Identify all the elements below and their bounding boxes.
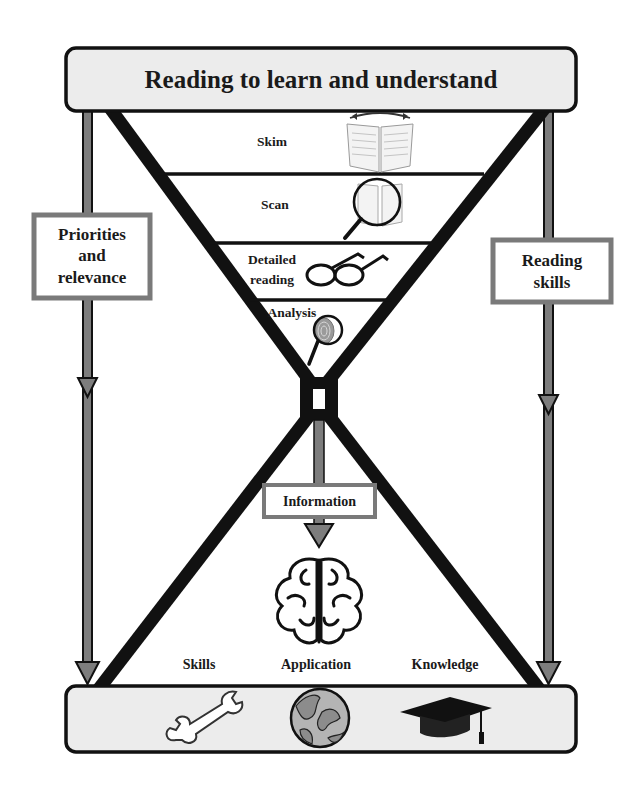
title-banner: Reading to learn and understand — [66, 48, 576, 111]
outcome-knowledge-label: Knowledge — [412, 657, 479, 672]
hourglass-diagram: Information Reading to learn and underst… — [0, 0, 642, 785]
reading-skills-line2: skills — [534, 273, 571, 292]
page-title: Reading to learn and understand — [145, 66, 498, 93]
hourglass-neck — [300, 377, 338, 420]
left-arrow — [76, 110, 99, 684]
magnifier-book-icon — [345, 179, 402, 238]
open-book-icon — [347, 113, 413, 172]
priorities-label-line2: and — [78, 246, 106, 265]
information-box: Information — [264, 485, 375, 517]
information-label: Information — [283, 494, 356, 509]
priorities-label-line3: relevance — [58, 268, 127, 287]
level-detailed-label-line2: reading — [250, 272, 294, 287]
priorities-label-line1: Priorities — [58, 225, 126, 244]
brain-icon — [276, 559, 361, 643]
right-arrow — [537, 110, 560, 684]
globe-icon — [291, 689, 349, 747]
outcome-application-label: Application — [281, 657, 351, 672]
glasses-icon — [307, 254, 388, 285]
level-detailed-label-line1: Detailed — [248, 252, 296, 267]
level-skim-label: Skim — [257, 134, 288, 149]
reading-skills-line1: Reading — [522, 251, 583, 270]
reading-skills-box: Reading skills — [493, 240, 611, 302]
fingerprint-magnifier-icon — [309, 316, 342, 364]
outcome-skills-label: Skills — [183, 657, 216, 672]
level-scan-label: Scan — [261, 197, 289, 212]
level-analysis-label: Analysis — [268, 305, 317, 320]
priorities-box: Priorities and relevance — [34, 215, 150, 298]
